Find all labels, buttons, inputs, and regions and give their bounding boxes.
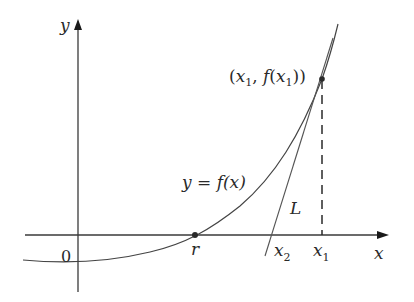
y-axis-label: y: [59, 15, 70, 35]
curve-label: y = f(x): [181, 172, 246, 192]
x1-label: x1: [313, 240, 330, 264]
x-axis-arrow-icon: [377, 231, 389, 239]
newton-method-diagram: y 0 x r x2 x1 L y = f(x) (x1, f(x1)): [0, 0, 414, 302]
x2-label: x2: [274, 240, 291, 264]
root-point: [192, 232, 198, 238]
point-label: (x1, f(x1)): [229, 66, 306, 89]
point-x1-fx1: [319, 76, 325, 82]
curve-f: [23, 24, 338, 262]
y-axis-arrow-icon: [74, 19, 82, 30]
x-axis-label: x: [374, 243, 384, 263]
tangent-label-L: L: [289, 198, 301, 218]
origin-label: 0: [61, 247, 71, 266]
root-label: r: [191, 239, 200, 259]
